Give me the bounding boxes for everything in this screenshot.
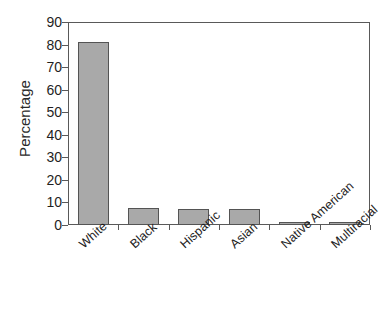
plot-area — [68, 22, 370, 225]
y-tick-mark — [62, 90, 68, 91]
x-tick-mark — [370, 225, 371, 230]
y-tick-label: 30 — [22, 150, 62, 164]
y-tick-label: 70 — [22, 60, 62, 74]
y-tick-label: 50 — [22, 105, 62, 119]
y-tick-mark — [62, 22, 68, 23]
bar — [128, 208, 159, 225]
y-tick-mark — [62, 112, 68, 113]
x-tick-mark — [320, 225, 321, 230]
y-tick-mark — [62, 135, 68, 136]
y-tick-label: 40 — [22, 128, 62, 142]
x-tick-mark — [169, 225, 170, 230]
y-tick-mark — [62, 180, 68, 181]
y-tick-mark — [62, 45, 68, 46]
y-tick-mark — [62, 67, 68, 68]
x-tick-mark — [269, 225, 270, 230]
x-tick-mark — [219, 225, 220, 230]
y-tick-label: 90 — [22, 15, 62, 29]
y-tick-label: 20 — [22, 173, 62, 187]
bar — [229, 209, 260, 225]
x-tick-mark — [118, 225, 119, 230]
y-tick-mark — [62, 157, 68, 158]
bar — [78, 42, 109, 225]
y-tick-label: 10 — [22, 195, 62, 209]
y-tick-label: 0 — [22, 218, 62, 232]
y-tick-mark — [62, 225, 68, 226]
bar-chart: Percentage 0102030405060708090 WhiteBlac… — [0, 0, 392, 323]
y-tick-label: 80 — [22, 38, 62, 52]
y-tick-mark — [62, 202, 68, 203]
y-tick-label: 60 — [22, 83, 62, 97]
